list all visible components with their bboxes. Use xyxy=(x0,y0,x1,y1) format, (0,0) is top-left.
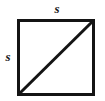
left-side-length-label: s xyxy=(0,50,16,63)
top-side-length-label: s xyxy=(49,2,65,15)
geometry-figure: s s xyxy=(0,0,105,101)
diagonal-line xyxy=(19,21,93,94)
